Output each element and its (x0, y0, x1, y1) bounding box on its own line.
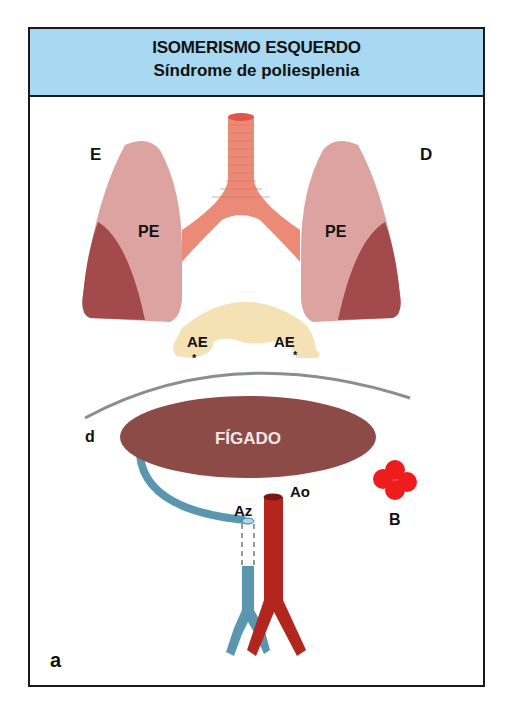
right-lung (301, 141, 401, 322)
spleen-label: B (389, 511, 401, 528)
left-atrium-marker: * (192, 352, 197, 364)
liver-label: FÍGADO (215, 429, 281, 448)
azygos-label: Az (234, 502, 252, 519)
polysplenia (373, 460, 417, 500)
right-side-label: D (420, 145, 432, 164)
left-lung-label: PE (138, 223, 160, 240)
trachea (182, 113, 300, 262)
left-lung (82, 141, 182, 322)
panel-label: a (50, 649, 62, 671)
left-atrium-label: AE (187, 333, 208, 350)
right-lung-label: PE (325, 223, 347, 240)
right-atrium-label: AE (274, 333, 295, 350)
diaphragm-label: d (85, 428, 95, 445)
aorta-label: Ao (290, 483, 310, 500)
left-side-label: E (90, 145, 101, 164)
right-atrium-marker: * (293, 349, 298, 361)
aorta (247, 494, 306, 657)
anatomy-illustration: E D PE PE AE AE * * d FÍGADO B Az Ao a (0, 0, 505, 707)
